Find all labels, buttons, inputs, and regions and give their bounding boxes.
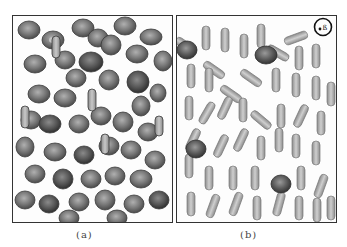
circle-marker: ß: [315, 19, 332, 36]
panel-b-caption: (b): [240, 229, 257, 240]
svg-text:ß: ß: [323, 24, 328, 32]
panel-b-cells: ß: [177, 16, 337, 223]
dark-disc-cell: [177, 41, 197, 59]
panel-a-caption: (a): [76, 229, 93, 240]
panel-a-image: [12, 15, 173, 223]
panel-b-image: ß: [176, 15, 337, 223]
panel-a-cells: [13, 16, 173, 223]
